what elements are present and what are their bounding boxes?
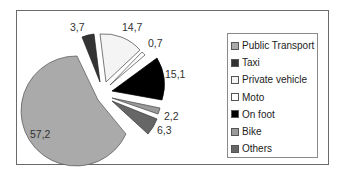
value-label-others: 6,3 [157,124,172,136]
legend-label: Bike [242,126,261,137]
value-label-private-vehicle: 14,7 [122,21,142,33]
value-label-bike: 2,2 [164,110,179,122]
legend-swatch [231,110,239,118]
legend-label: Public Transport [242,40,314,51]
legend-swatch [231,76,239,84]
legend-item-taxi: Taxi [231,54,317,71]
legend-swatch [231,93,239,101]
legend-item-others: Others [231,140,317,157]
legend-label: Taxi [242,57,260,68]
value-label-on-foot: 15,1 [165,68,185,80]
legend-label: Others [242,143,272,154]
legend-label: Private vehicle [242,74,307,85]
legend-item-on-foot: On foot [231,106,317,123]
value-label-taxi: 3,7 [70,21,85,33]
legend-label: Moto [242,92,264,103]
legend-item-public-transport: Public Transport [231,37,317,54]
legend-item-private-vehicle: Private vehicle [231,71,317,88]
value-label-moto: 0,7 [148,37,163,49]
legend-item-bike: Bike [231,123,317,140]
legend-swatch [231,59,239,67]
value-label-public-transport: 57,2 [30,128,50,140]
legend: Public Transport Taxi Private vehicle Mo… [227,33,318,158]
legend-swatch [231,128,239,136]
legend-swatch [231,42,239,50]
legend-label: On foot [242,109,275,120]
legend-swatch [231,145,239,153]
legend-item-moto: Moto [231,89,317,106]
